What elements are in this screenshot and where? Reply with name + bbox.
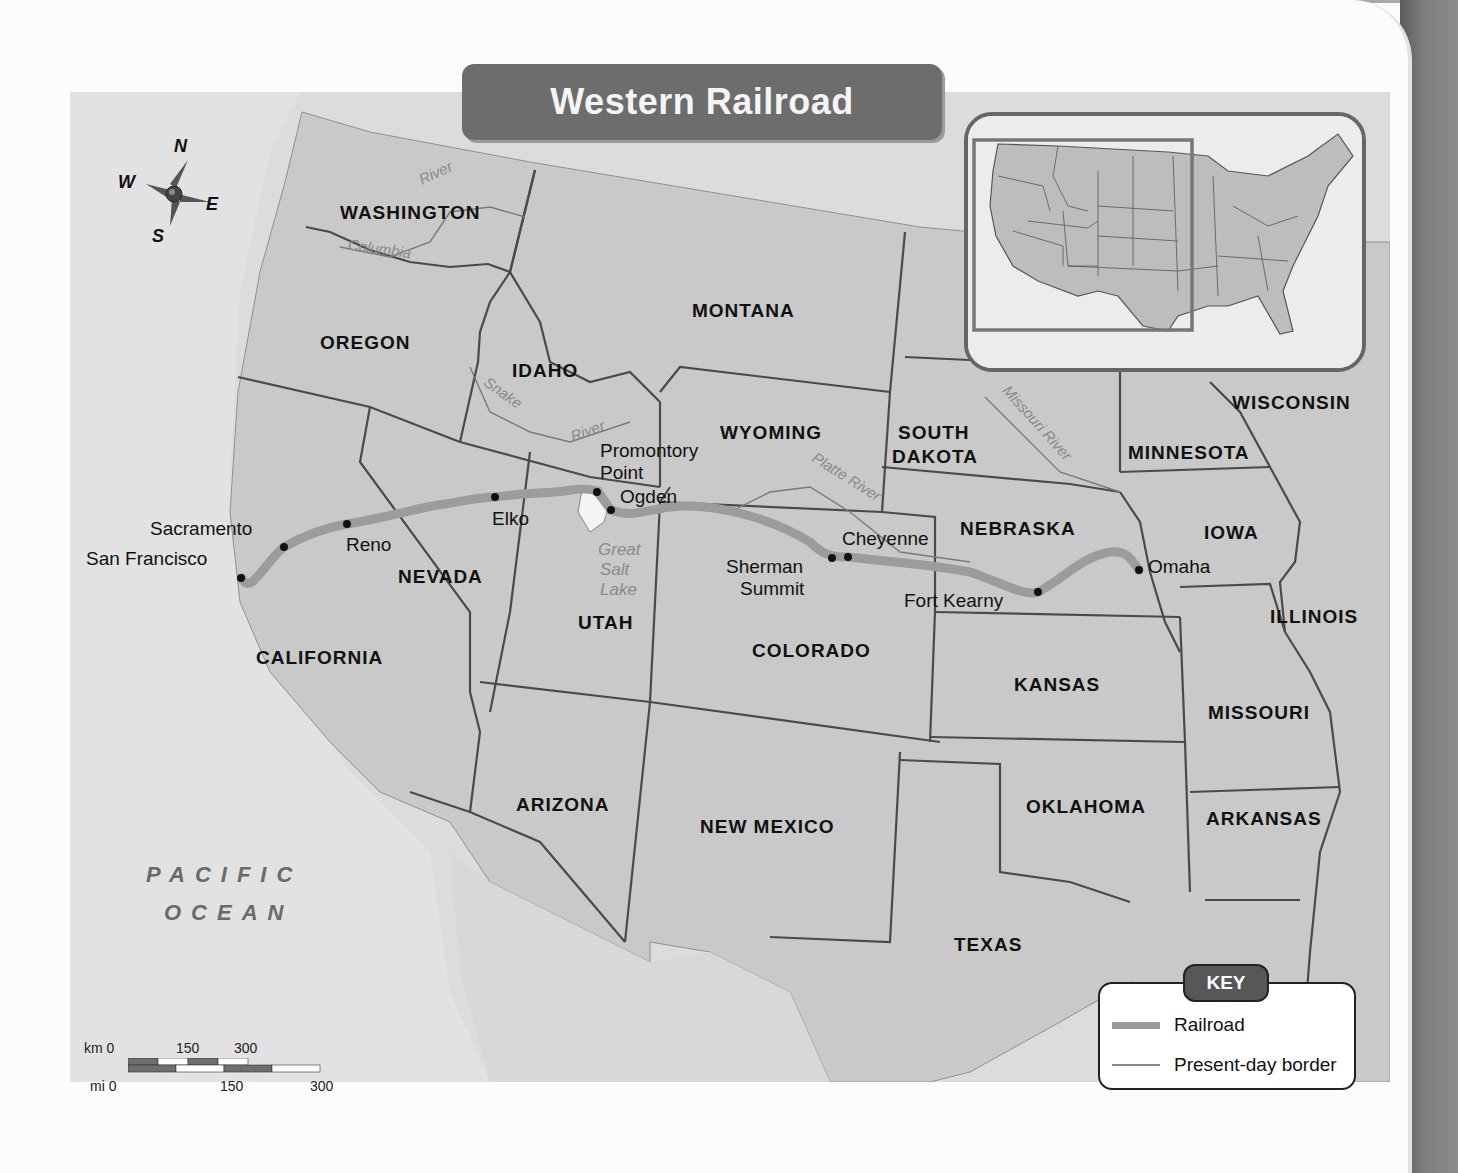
compass-west: W <box>118 172 135 193</box>
state-label-california: CALIFORNIA <box>256 647 383 669</box>
us-outline-icon <box>968 116 1362 368</box>
compass-rose: N W E S <box>108 134 238 254</box>
legend-item-border: Present-day border <box>1112 1054 1337 1076</box>
state-label-nevada: NEVADA <box>398 566 483 588</box>
state-label-oklahoma: OKLAHOMA <box>1026 796 1146 818</box>
locator-inset-map <box>964 112 1366 372</box>
state-label-wisconsin: WISCONSIN <box>1232 392 1351 414</box>
state-label-arizona: ARIZONA <box>516 794 610 816</box>
compass-south: S <box>152 226 164 247</box>
legend-item-railroad: Railroad <box>1112 1014 1245 1036</box>
compass-east: E <box>206 194 218 215</box>
state-label-nebraska: NEBRASKA <box>960 518 1076 540</box>
state-label-new-mexico: NEW MEXICO <box>700 816 835 838</box>
scale-bar: km 0 150 300 mi 0 150 300 <box>84 1040 344 1100</box>
lake-label-great: Great <box>598 540 641 560</box>
scale-mi-150: 150 <box>220 1078 243 1094</box>
ocean-label-pacific: PACIFIC <box>146 862 302 888</box>
city-label-promontory: Promontory <box>600 440 698 462</box>
state-label-texas: TEXAS <box>954 934 1022 956</box>
state-label-washington: WASHINGTON <box>340 202 481 224</box>
state-label-idaho: IDAHO <box>512 360 578 382</box>
map-title: Western Railroad <box>550 81 853 123</box>
city-label-fort-kearny: Fort Kearny <box>904 590 1003 612</box>
legend-label-border: Present-day border <box>1174 1054 1337 1076</box>
state-label-wyoming: WYOMING <box>720 422 822 444</box>
city-label-point: Point <box>600 462 643 484</box>
compass-north: N <box>174 136 187 157</box>
scale-km-label: km 0 <box>84 1040 114 1056</box>
border-swatch-icon <box>1112 1064 1160 1066</box>
map-title-banner: Western Railroad <box>462 64 942 140</box>
city-label-omaha: Omaha <box>1148 556 1210 578</box>
city-label-cheyenne: Cheyenne <box>842 528 929 550</box>
city-label-ogden: Ogden <box>620 486 677 508</box>
city-label-sacramento: Sacramento <box>150 518 252 540</box>
scale-km-150: 150 <box>176 1040 199 1056</box>
legend-title: KEY <box>1183 964 1269 1002</box>
compass-star-icon <box>108 134 238 254</box>
state-label-iowa: IOWA <box>1204 522 1259 544</box>
scale-mi-300: 300 <box>310 1078 333 1094</box>
state-label-utah: UTAH <box>578 612 633 634</box>
state-label-missouri: MISSOURI <box>1208 702 1310 724</box>
city-label-san-francisco: San Francisco <box>86 548 207 570</box>
scale-mi-label: mi 0 <box>90 1078 116 1094</box>
city-label-elko: Elko <box>492 508 529 530</box>
state-label-minnesota: MINNESOTA <box>1128 442 1250 464</box>
legend-label-railroad: Railroad <box>1174 1014 1245 1036</box>
state-label-illinois: ILLINOIS <box>1270 606 1358 628</box>
state-label-south: SOUTH <box>898 422 970 444</box>
lake-label-salt: Salt <box>600 560 629 580</box>
city-label-sherman: Sherman <box>726 556 803 578</box>
ocean-label-ocean: OCEAN <box>164 900 293 926</box>
railroad-swatch-icon <box>1112 1022 1160 1029</box>
city-label-reno: Reno <box>346 534 391 556</box>
state-label-montana: MONTANA <box>692 300 795 322</box>
state-label-colorado: COLORADO <box>752 640 871 662</box>
city-label-summit: Summit <box>740 578 804 600</box>
state-label-kansas: KANSAS <box>1014 674 1100 696</box>
scale-km-300: 300 <box>234 1040 257 1056</box>
state-label-oregon: OREGON <box>320 332 410 354</box>
state-label-dakota: DAKOTA <box>892 446 978 468</box>
lake-label-lake: Lake <box>600 580 637 600</box>
scale-bar-graphic <box>128 1058 388 1078</box>
state-label-arkansas: ARKANSAS <box>1206 808 1322 830</box>
